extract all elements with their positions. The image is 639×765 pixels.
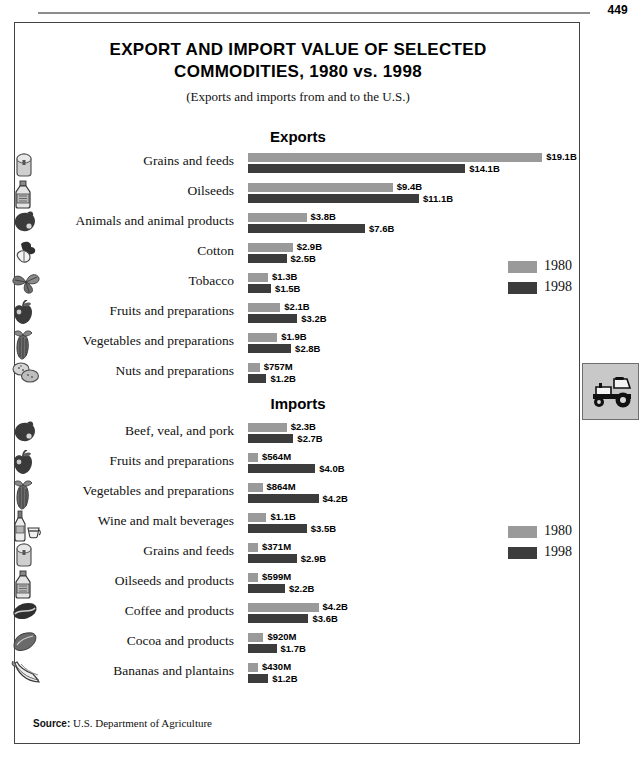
wine-bottle-icon [11, 510, 39, 538]
row-category-label: Grains and feeds [42, 153, 234, 168]
row-category-label: Bananas and plantains [42, 663, 234, 678]
row-bars: $864M$4.2B [234, 479, 581, 509]
bar-1998 [248, 164, 465, 173]
bar-value-label: $2.8B [295, 343, 320, 354]
row-category-label: Tobacco [42, 273, 234, 288]
row-bars: $2.3B$2.7B [234, 419, 581, 449]
legend-swatch [508, 261, 537, 273]
bar-1998 [248, 314, 297, 323]
bar-value-label: $4.0B [319, 463, 344, 474]
row-bars: $564M$4.0B [234, 449, 581, 479]
apple-icon [11, 300, 39, 328]
exports-chart: Grains and feeds$19.1B$14.1BOilseeds$9.4… [15, 149, 581, 389]
bar-value-label: $14.1B [469, 163, 500, 174]
bar-value-label: $1.9B [281, 331, 306, 342]
side-tab-tractor[interactable] [582, 363, 639, 420]
bar-value-label: $1.5B [275, 283, 300, 294]
chart-row: Fruits and preparations$564M$4.0B [15, 449, 581, 479]
coffee-bean-icon [11, 600, 39, 628]
bar-1998 [248, 434, 293, 443]
bar-1998 [248, 224, 365, 233]
row-label-cell: Cotton [15, 239, 234, 269]
bar-1998 [248, 494, 319, 503]
chart-row: Tobacco$1.3B$1.5B [15, 269, 581, 299]
figure-subtitle: (Exports and imports from and to the U.S… [15, 89, 581, 105]
row-label-cell: Oilseeds and products [15, 569, 234, 599]
row-label-cell: Fruits and preparations [15, 299, 234, 329]
figure-title-line2: COMMODITIES, 1980 vs. 1998 [15, 61, 581, 83]
row-label-cell: Grains and feeds [15, 149, 234, 179]
chart-row: Oilseeds and products$599M$2.2B [15, 569, 581, 599]
chart-row: Nuts and preparations$757M$1.2B [15, 359, 581, 389]
bar-1998 [248, 464, 315, 473]
bar-value-label: $2.3B [291, 421, 316, 432]
row-category-label: Vegetables and preparations [42, 333, 234, 348]
chart-row: Vegetables and preparations$1.9B$2.8B [15, 329, 581, 359]
row-label-cell: Cocoa and products [15, 629, 234, 659]
corn-icon [11, 330, 39, 358]
bar-value-label: $3.8B [311, 211, 336, 222]
cocoa-bean-icon [11, 630, 39, 658]
row-label-cell: Grains and feeds [15, 539, 234, 569]
oil-bottle-icon [11, 570, 39, 598]
row-bars: $2.1B$3.2B [234, 299, 581, 329]
bar-value-label: $430M [262, 661, 291, 672]
bar-value-label: $599M [262, 571, 291, 582]
bar-1980 [248, 483, 263, 492]
bar-1980 [248, 153, 542, 162]
chart-row: Grains and feeds$371M$2.9B [15, 539, 581, 569]
chart-row: Coffee and products$4.2B$3.6B [15, 599, 581, 629]
row-label-cell: Beef, veal, and pork [15, 419, 234, 449]
chart-row: Animals and animal products$3.8B$7.6B [15, 209, 581, 239]
bar-value-label: $1.1B [270, 511, 295, 522]
row-label-cell: Fruits and preparations [15, 449, 234, 479]
banana-icon [11, 660, 39, 688]
bar-value-label: $864M [267, 481, 296, 492]
imports-section-title: Imports [15, 395, 581, 412]
bar-1998 [248, 524, 307, 533]
row-label-cell: Vegetables and preparations [15, 479, 234, 509]
bar-value-label: $371M [262, 541, 291, 552]
row-label-cell: Vegetables and preparations [15, 329, 234, 359]
legend-label: 1998 [544, 544, 572, 560]
chart-row: Wine and malt beverages$1.1B$3.5B [15, 509, 581, 539]
bar-1980 [248, 273, 268, 282]
row-label-cell: Wine and malt beverages [15, 509, 234, 539]
row-label-cell: Nuts and preparations [15, 359, 234, 389]
row-bars: $599M$2.2B [234, 569, 581, 599]
row-category-label: Beef, veal, and pork [42, 423, 234, 438]
page-number: 449 [607, 3, 628, 17]
animal-icon [11, 210, 39, 238]
bar-value-label: $1.2B [272, 673, 297, 684]
oil-bottle-icon [11, 180, 39, 208]
bar-value-label: $2.9B [301, 553, 326, 564]
row-bars: $9.4B$11.1B [234, 179, 581, 209]
bar-value-label: $2.1B [284, 301, 309, 312]
bar-value-label: $7.6B [369, 223, 394, 234]
bar-value-label: $920M [267, 631, 296, 642]
row-category-label: Cocoa and products [42, 633, 234, 648]
row-label-cell: Coffee and products [15, 599, 234, 629]
row-bars: $1.9B$2.8B [234, 329, 581, 359]
cotton-boll-icon [11, 240, 39, 268]
source-text: U.S. Department of Agriculture [73, 717, 212, 729]
bar-1980 [248, 183, 393, 192]
exports-section-title: Exports [15, 128, 581, 145]
bar-value-label: $2.5B [291, 253, 316, 264]
chart-row: Beef, veal, and pork$2.3B$2.7B [15, 419, 581, 449]
legend-label: 1980 [544, 523, 572, 539]
row-category-label: Nuts and preparations [42, 363, 234, 378]
row-category-label: Fruits and preparations [42, 303, 234, 318]
bar-1980 [248, 243, 293, 252]
row-bars: $757M$1.2B [234, 359, 581, 389]
bar-value-label: $2.2B [289, 583, 314, 594]
chart-row: Bananas and plantains$430M$1.2B [15, 659, 581, 689]
legend-swatch [508, 547, 537, 559]
figure-title-line1: EXPORT AND IMPORT VALUE OF SELECTED [110, 40, 487, 59]
row-label-cell: Oilseeds [15, 179, 234, 209]
row-bars: $4.2B$3.6B [234, 599, 581, 629]
chart-row: Cotton$2.9B$2.5B [15, 239, 581, 269]
bar-value-label: $2.7B [297, 433, 322, 444]
bar-value-label: $3.2B [301, 313, 326, 324]
row-label-cell: Tobacco [15, 269, 234, 299]
